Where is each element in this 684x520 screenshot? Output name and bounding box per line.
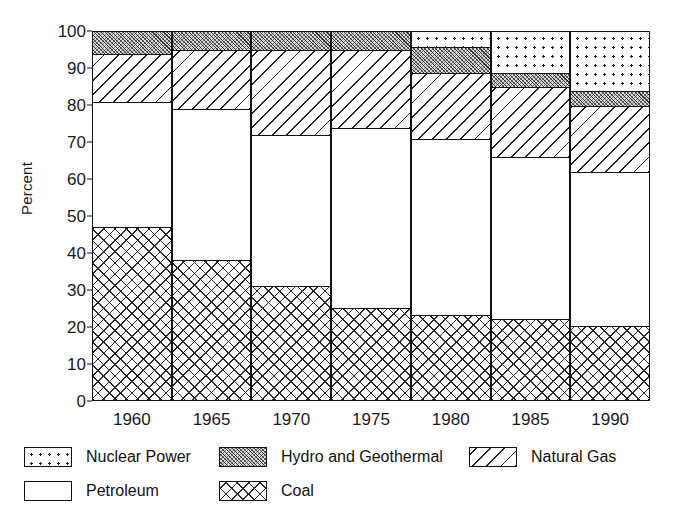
segment-1975-natural-gas[interactable] — [332, 50, 410, 127]
legend-label-hydro-and-geothermal: Hydro and Geothermal — [281, 448, 443, 466]
x-tick-1990: 1990 — [570, 404, 650, 434]
y-tick-80: 80 — [67, 97, 86, 114]
x-tick-1975: 1975 — [331, 404, 411, 434]
segment-1965-petroleum[interactable] — [173, 109, 251, 260]
segment-1985-natural-gas[interactable] — [492, 87, 570, 157]
legend-swatch-nuclear-power-icon — [24, 447, 72, 467]
x-tick-1965: 1965 — [172, 404, 252, 434]
y-tick-40: 40 — [67, 245, 86, 262]
segment-1975-coal[interactable] — [332, 308, 410, 400]
segment-1980-nuclear-power[interactable] — [412, 32, 490, 47]
legend-swatch-natural-gas-icon — [469, 447, 517, 467]
segment-1975-petroleum[interactable] — [332, 128, 410, 308]
chart-figure: Percent 100 90 80 70 60 50 40 30 20 10 0… — [0, 0, 684, 520]
legend-label-natural-gas: Natural Gas — [531, 448, 616, 466]
segment-1990-coal[interactable] — [571, 326, 649, 400]
legend-swatch-coal-icon — [219, 481, 267, 501]
segment-1990-petroleum[interactable] — [571, 172, 649, 327]
x-axis-tick-labels: 1960 1965 1970 1975 1980 1985 1990 — [92, 404, 650, 434]
y-tick-70: 70 — [67, 134, 86, 151]
y-tick-90: 90 — [67, 60, 86, 77]
segment-1960-coal[interactable] — [93, 227, 171, 400]
legend-item-natural-gas: Natural Gas — [469, 447, 659, 467]
segment-1985-hydro-and-geothermal[interactable] — [492, 73, 570, 88]
bar-1985[interactable] — [491, 32, 571, 400]
x-tick-1960: 1960 — [92, 404, 172, 434]
segment-1990-nuclear-power[interactable] — [571, 32, 649, 91]
plot-area — [92, 31, 650, 401]
chart-legend: Nuclear Power Hydro and Geothermal Natur… — [24, 447, 664, 515]
y-tick-20: 20 — [67, 319, 86, 336]
y-axis-tick-labels: 100 90 80 70 60 50 40 30 20 10 0 — [36, 0, 86, 430]
x-tick-1980: 1980 — [411, 404, 491, 434]
legend-label-nuclear-power: Nuclear Power — [86, 448, 191, 466]
bar-1980[interactable] — [411, 32, 491, 400]
y-axis-title: Percent — [18, 129, 35, 249]
segment-1985-petroleum[interactable] — [492, 157, 570, 319]
y-tick-10: 10 — [67, 356, 86, 373]
legend-row-1: Nuclear Power Hydro and Geothermal Natur… — [24, 447, 664, 467]
segment-1980-coal[interactable] — [412, 315, 490, 400]
legend-item-coal: Coal — [219, 481, 469, 501]
bar-1990[interactable] — [570, 32, 649, 400]
segment-1965-coal[interactable] — [173, 260, 251, 400]
y-tick-50: 50 — [67, 208, 86, 225]
segment-1970-coal[interactable] — [252, 286, 330, 400]
legend-label-coal: Coal — [281, 482, 314, 500]
segment-1960-hydro-and-geothermal[interactable] — [93, 32, 171, 54]
bar-1965[interactable] — [172, 32, 252, 400]
legend-item-hydro-and-geothermal: Hydro and Geothermal — [219, 447, 469, 467]
segment-1960-natural-gas[interactable] — [93, 54, 171, 102]
segment-1980-natural-gas[interactable] — [412, 73, 490, 139]
legend-swatch-hydro-and-geothermal-icon — [219, 447, 267, 467]
segment-1970-petroleum[interactable] — [252, 135, 330, 286]
segment-1975-hydro-and-geothermal[interactable] — [332, 32, 410, 50]
legend-row-2: Petroleum Coal — [24, 481, 664, 501]
segment-1970-hydro-and-geothermal[interactable] — [252, 32, 330, 50]
x-tick-1985: 1985 — [491, 404, 571, 434]
y-tick-0: 0 — [77, 393, 86, 410]
legend-swatch-petroleum-icon — [24, 481, 72, 501]
y-tick-30: 30 — [67, 282, 86, 299]
bar-1970[interactable] — [251, 32, 331, 400]
x-tick-1970: 1970 — [251, 404, 331, 434]
y-tick-100: 100 — [58, 23, 86, 40]
segment-1985-nuclear-power[interactable] — [492, 32, 570, 72]
legend-item-nuclear-power: Nuclear Power — [24, 447, 219, 467]
segment-1990-hydro-and-geothermal[interactable] — [571, 91, 649, 106]
segment-1960-petroleum[interactable] — [93, 102, 171, 227]
bar-1975[interactable] — [331, 32, 411, 400]
legend-label-petroleum: Petroleum — [86, 482, 159, 500]
segment-1970-natural-gas[interactable] — [252, 50, 330, 135]
segment-1980-hydro-and-geothermal[interactable] — [412, 47, 490, 73]
segment-1985-coal[interactable] — [492, 319, 570, 400]
segment-1965-natural-gas[interactable] — [173, 50, 251, 109]
y-tick-60: 60 — [67, 171, 86, 188]
segment-1965-hydro-and-geothermal[interactable] — [173, 32, 251, 50]
segment-1990-natural-gas[interactable] — [571, 106, 649, 172]
bar-1960[interactable] — [93, 32, 172, 400]
legend-item-petroleum: Petroleum — [24, 481, 219, 501]
segment-1980-petroleum[interactable] — [412, 139, 490, 316]
